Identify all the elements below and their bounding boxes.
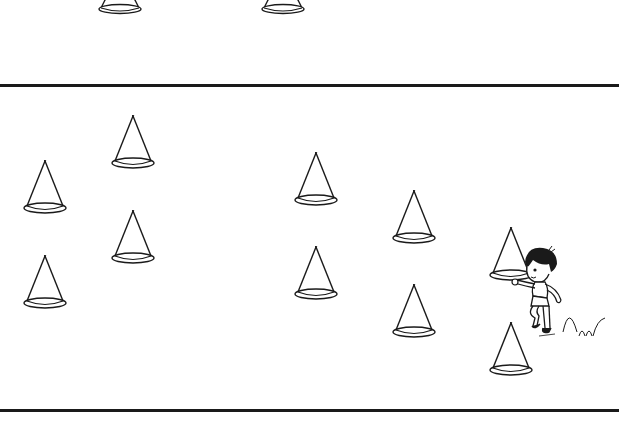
running-child-figure bbox=[505, 244, 615, 344]
cone-icon bbox=[392, 190, 436, 246]
cone-icon bbox=[294, 246, 338, 302]
cone-icon bbox=[98, 0, 142, 16]
cone-icon bbox=[294, 152, 338, 208]
cone-icon bbox=[261, 0, 305, 16]
cone-icon bbox=[392, 284, 436, 340]
illustration-canvas: ) bbox=[0, 0, 619, 442]
cone-icon bbox=[111, 115, 155, 171]
cone-icon bbox=[23, 160, 67, 216]
cone-icon bbox=[23, 255, 67, 311]
panel-divider-top bbox=[0, 84, 619, 87]
panel-divider-bottom bbox=[0, 409, 619, 412]
cone-icon bbox=[111, 210, 155, 266]
